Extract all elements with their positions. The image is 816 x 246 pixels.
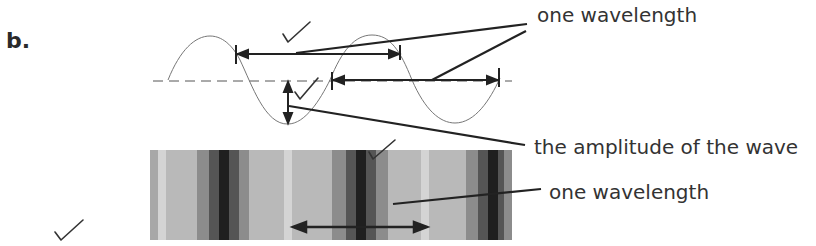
wave-diagram: [0, 0, 816, 246]
top-wavelength-label: one wavelength: [537, 3, 697, 27]
check-icon: [55, 220, 83, 240]
amplitude-arrow: [284, 82, 292, 123]
top-wavelength-arrow: [236, 45, 400, 64]
bottom-wavelength-label: one wavelength: [549, 180, 709, 204]
check-icon: [283, 22, 310, 42]
amplitude-label: the amplitude of the wave: [534, 135, 798, 159]
